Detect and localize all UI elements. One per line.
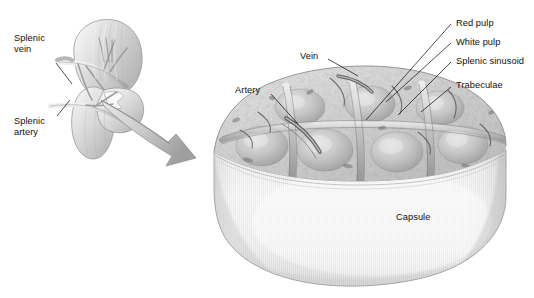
spleen-structure-figure: Splenic vein Splenic artery Vein Artery … xyxy=(0,0,534,298)
leader-splenic-vein xyxy=(56,63,72,84)
label-vein: Vein xyxy=(300,51,318,62)
label-splenic-vein: Splenic vein xyxy=(14,33,45,54)
label-splenic-sinusoid: Splenic sinusoid xyxy=(456,56,524,67)
arrow-body xyxy=(101,100,196,166)
spleen-organ xyxy=(50,19,144,159)
label-capsule: Capsule xyxy=(396,212,430,223)
label-splenic-artery: Splenic artery xyxy=(14,116,45,137)
label-red-pulp: Red pulp xyxy=(456,18,494,29)
leader-splenic-artery xyxy=(57,100,70,116)
label-trabeculae: Trabeculae xyxy=(456,80,503,91)
label-artery: Artery xyxy=(235,85,260,96)
label-white-pulp: White pulp xyxy=(456,37,500,48)
illustration-canvas xyxy=(0,0,534,298)
magnification-arrow xyxy=(101,100,196,166)
